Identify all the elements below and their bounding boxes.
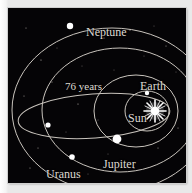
uranus-orbit [42,48,186,172]
jupiter-body [113,135,122,144]
earth-body [145,91,149,95]
celestial-bodies [45,23,149,160]
sun-icon [144,100,166,122]
neptune-body [67,23,73,29]
comet-body [45,122,50,127]
uranus-body [69,154,75,160]
figure-page: Neptune 76 years Earth Sun Jupiter Uranu… [0,0,192,193]
sky-panel: Neptune 76 years Earth Sun Jupiter Uranu… [8,8,186,183]
orbit-diagram [8,8,186,183]
